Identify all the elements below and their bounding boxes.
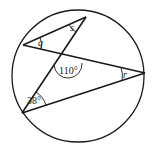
geometry-diagram: q s 110° r 38° bbox=[0, 0, 153, 149]
label-s: s bbox=[70, 22, 74, 33]
label-q: q bbox=[38, 37, 43, 48]
label-r: r bbox=[123, 69, 127, 80]
label-110: 110° bbox=[59, 65, 78, 76]
label-38: 38° bbox=[27, 95, 41, 106]
